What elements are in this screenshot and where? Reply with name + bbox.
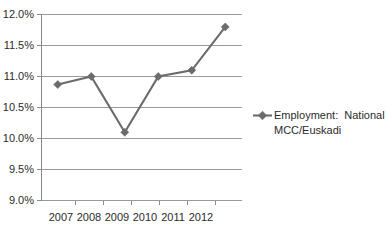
y-tick-label-9-5: 9.5%	[9, 163, 34, 175]
chart-background	[0, 0, 386, 242]
x-tick-label-2008: 2008	[77, 211, 101, 223]
x-tick-label-2009: 2009	[105, 211, 129, 223]
y-tick-label-11-5: 11.5%	[4, 39, 35, 51]
x-tick-label-2010: 2010	[133, 211, 157, 223]
x-tick-label-2011: 2011	[161, 211, 185, 223]
chart-canvas: 12.0% 11.5% 11.0% 10.5% 10.0% 9.5% 9.0% …	[0, 0, 386, 242]
y-tick-label-10-0: 10.0%	[3, 132, 34, 144]
line-chart: 12.0% 11.5% 11.0% 10.5% 10.0% 9.5% 9.0% …	[0, 0, 386, 242]
y-tick-label-11-0: 11.0%	[4, 70, 35, 82]
legend-label-line1: Employment: National	[274, 109, 385, 121]
y-tick-label-10-5: 10.5%	[3, 101, 34, 113]
y-tick-label-12-0: 12.0%	[3, 8, 34, 20]
x-tick-label-2007: 2007	[49, 211, 73, 223]
x-tick-label-2012: 2012	[189, 211, 213, 223]
legend-label-line2: MCC/Euskadi	[274, 124, 341, 136]
y-tick-label-9-0: 9.0%	[9, 194, 34, 206]
